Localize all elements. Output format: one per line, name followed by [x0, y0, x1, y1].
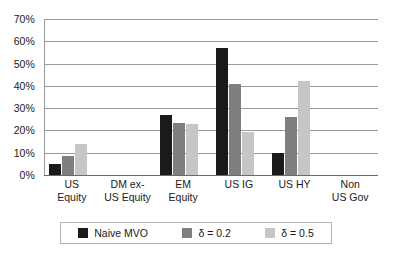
legend-swatch-icon — [265, 228, 275, 238]
bar[interactable] — [272, 153, 284, 175]
bar-groups — [44, 19, 378, 175]
x-category-label-line: Equity — [156, 191, 210, 204]
x-category-label-line: Equity — [45, 191, 99, 204]
bar[interactable] — [75, 144, 87, 175]
y-tick-label: 60% — [14, 36, 35, 47]
x-axis: USEquityDM ex-US EquityEMEquityUS IGUS H… — [44, 178, 378, 218]
bar-group — [100, 19, 156, 175]
bar[interactable] — [216, 48, 228, 175]
y-tick-label: 70% — [14, 14, 35, 25]
bar[interactable] — [242, 132, 254, 175]
x-category-label: EMEquity — [155, 178, 211, 218]
x-category-label-line: US Gov — [323, 191, 377, 204]
axis-baseline — [44, 175, 378, 176]
y-tick-label: 50% — [14, 58, 35, 69]
y-tick-label: 0% — [20, 170, 35, 181]
x-category-label-line: US Equity — [101, 191, 155, 204]
y-tick-label: 20% — [14, 125, 35, 136]
legend-item[interactable]: δ = 0.5 — [265, 228, 313, 239]
x-category-label-line: Non — [323, 178, 377, 191]
y-tick-label: 40% — [14, 81, 35, 92]
bar[interactable] — [186, 124, 198, 175]
x-category-label-line: EM — [156, 178, 210, 191]
bar-group — [267, 19, 323, 175]
plot-area — [44, 19, 378, 175]
x-category-label: DM ex-US Equity — [100, 178, 156, 218]
plot-wrapper: 70%60%50%40%30%20%10%0% — [0, 0, 396, 196]
x-category-label: NonUS Gov — [322, 178, 378, 218]
x-category-label: US HY — [267, 178, 323, 218]
bar[interactable] — [173, 123, 185, 175]
y-axis: 70%60%50%40%30%20%10%0% — [0, 0, 40, 196]
bar[interactable] — [62, 156, 74, 175]
x-category-label-line: US — [45, 178, 99, 191]
legend-item[interactable]: δ = 0.2 — [182, 228, 230, 239]
bar-group — [155, 19, 211, 175]
y-tick-label: 30% — [14, 103, 35, 114]
bar[interactable] — [298, 81, 310, 175]
x-category-label: US IG — [211, 178, 267, 218]
bar[interactable] — [229, 84, 241, 175]
x-category-label-line: US IG — [212, 178, 266, 191]
bar[interactable] — [285, 117, 297, 175]
legend-label: δ = 0.5 — [281, 228, 313, 239]
y-tick-label: 10% — [14, 147, 35, 158]
bar-group — [322, 19, 378, 175]
x-category-label-line: US HY — [268, 178, 322, 191]
legend-swatch-icon — [78, 228, 88, 238]
bar-group — [211, 19, 267, 175]
legend-label: δ = 0.2 — [198, 228, 230, 239]
bar[interactable] — [49, 164, 61, 175]
bar-group — [44, 19, 100, 175]
bar-chart: 70%60%50%40%30%20%10%0% USEquityDM ex-US… — [0, 0, 396, 255]
legend-swatch-icon — [182, 228, 192, 238]
x-category-label: USEquity — [44, 178, 100, 218]
legend-item[interactable]: Naive MVO — [78, 228, 148, 239]
chart-legend: Naive MVOδ = 0.2δ = 0.5 — [60, 222, 332, 244]
x-category-label-line: DM ex- — [101, 178, 155, 191]
legend-label: Naive MVO — [94, 228, 148, 239]
bar[interactable] — [160, 115, 172, 175]
